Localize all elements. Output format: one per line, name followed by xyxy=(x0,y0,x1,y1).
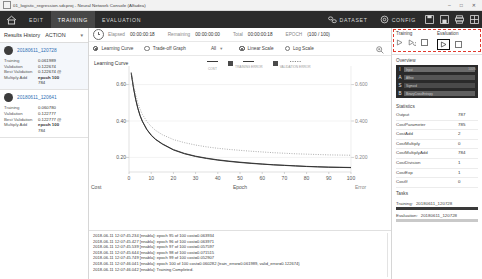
svg-text:0.400: 0.400 xyxy=(355,118,368,124)
tasks-list: Training: 20180611_120728 Evaluation: 20… xyxy=(392,198,482,222)
stat-value: 0 xyxy=(458,178,478,187)
stat-key: CostDivision xyxy=(396,159,458,168)
svg-text:50: 50 xyxy=(237,175,243,181)
table-row: CostParameter785 xyxy=(396,121,478,131)
tab-evaluation[interactable]: EVALUATION xyxy=(95,11,148,28)
document-icon xyxy=(3,1,11,9)
minimize-button[interactable]: – xyxy=(448,3,451,8)
result-name: 20180611_120641 xyxy=(17,95,57,100)
stat-key: CostParameter xyxy=(396,121,458,130)
task-value: 20180611_120728 xyxy=(421,213,457,218)
elapsed-label: Elapsed xyxy=(108,32,125,37)
result-name: 20180611_120728 xyxy=(17,48,57,53)
resume-icon[interactable] xyxy=(408,39,416,46)
gear-icon xyxy=(380,15,389,24)
play-icon[interactable] xyxy=(396,39,403,46)
play-icon xyxy=(440,41,447,48)
training-status-bar: Elapsed 00:00:00:18 Remaining 00:00:00:0… xyxy=(89,28,391,42)
table-row: CostDivision1 xyxy=(396,159,478,169)
training-controls: Training xyxy=(396,31,437,50)
layer-name: Input xyxy=(406,68,413,72)
result-subvalue: 784 xyxy=(4,80,84,85)
overview-layer: S Sigmoid xyxy=(396,82,478,89)
network-overview-thumbnail[interactable]: I Input A Affine S Sigmoid B Bin xyxy=(396,65,478,98)
stat-key: CostMultiply xyxy=(396,140,458,149)
svg-text:100: 100 xyxy=(347,175,356,181)
action-menu[interactable]: ACTION xyxy=(45,32,65,38)
log-line: 2018-06-11 12:07:46.042 [nnabla]: Traini… xyxy=(93,267,391,273)
svg-text:Epoch: Epoch xyxy=(233,184,247,190)
stat-value: 784 xyxy=(458,149,478,158)
statistics-label: Statistics xyxy=(392,101,482,111)
menu-bar: EDIT TRAINING EVALUATION DATASET CONFIG xyxy=(0,11,482,28)
total-label: Total xyxy=(233,32,243,37)
svg-text:70: 70 xyxy=(282,175,288,181)
log-scale-label: Log Scale xyxy=(293,46,314,51)
zoom-in-icon[interactable] xyxy=(376,40,384,58)
learning-curve-label: Learning Curve xyxy=(101,46,133,51)
svg-text:20: 20 xyxy=(171,175,177,181)
stat-key: Output xyxy=(396,111,458,120)
window-controls: – □ ✕ xyxy=(448,3,480,8)
training-log[interactable]: 2018-06-11 12:07:45.234 [nnabla]: epoch … xyxy=(89,230,391,279)
stat-value: 1 xyxy=(458,169,478,178)
tradeoff-graph-label: Trade-off Graph xyxy=(153,46,186,51)
center-panel: Elapsed 00:00:00:18 Remaining 00:00:00:0… xyxy=(89,28,391,279)
evaluation-play-button[interactable] xyxy=(437,39,450,50)
chevron-down-icon[interactable]: ▼ xyxy=(79,33,84,38)
result-card[interactable]: 20180611_120641 Training 0.060780 Valida… xyxy=(0,90,88,137)
filter-select-value[interactable]: All xyxy=(211,46,216,51)
config-button[interactable]: CONFIG xyxy=(374,15,422,24)
chevron-down-icon[interactable]: ▼ xyxy=(219,46,223,51)
print-icon[interactable] xyxy=(452,11,467,28)
save-as-icon[interactable] xyxy=(437,11,452,28)
remaining-label: Remaining xyxy=(168,32,190,37)
svg-text:40: 40 xyxy=(215,175,221,181)
radio-on-icon xyxy=(239,46,244,51)
table-row: CostExp1 xyxy=(396,169,478,179)
radio-log-scale[interactable]: Log Scale xyxy=(285,46,314,51)
stop-icon[interactable] xyxy=(455,41,462,48)
total-value: 00:00:00:18 xyxy=(248,32,273,37)
svg-text:0.60: 0.60 xyxy=(116,81,126,87)
overview-layer: A Affine xyxy=(396,74,478,81)
log-scrollbar[interactable] xyxy=(386,233,389,277)
linear-scale-label: Linear Scale xyxy=(248,46,274,51)
stat-value: 0 xyxy=(458,140,478,149)
task-key: Training: xyxy=(396,201,413,206)
radio-linear-scale[interactable]: Linear Scale xyxy=(239,46,273,51)
svg-text:0.40: 0.40 xyxy=(116,118,126,124)
stat-value: 2 xyxy=(458,130,478,139)
result-value: epoch 100 xyxy=(38,75,59,80)
layout-icon[interactable] xyxy=(467,11,482,28)
radio-learning-curve[interactable]: Learning Curve xyxy=(93,46,133,51)
close-button[interactable]: ✕ xyxy=(472,3,476,8)
chart-plot-area: 0.200.2000.400.4000.600.6000102030405060… xyxy=(89,56,391,201)
clock-icon xyxy=(93,29,104,40)
home-icon[interactable] xyxy=(0,15,22,25)
result-card-header: 20180611_120728 xyxy=(4,46,84,55)
save-icon[interactable] xyxy=(422,11,437,28)
layer-name: BinaryCrossEntropy xyxy=(406,92,433,96)
results-history-header: Results History ACTION ▼ xyxy=(0,28,88,43)
menu-right-group: DATASET CONFIG xyxy=(322,11,482,28)
tab-training[interactable]: TRAINING xyxy=(51,11,95,28)
task-value: 20180611_120728 xyxy=(416,201,452,206)
main-body: Results History ACTION ▼ 20180611_120728… xyxy=(0,28,482,279)
avatar xyxy=(4,93,13,102)
stop-icon[interactable] xyxy=(421,39,428,46)
tab-edit[interactable]: EDIT xyxy=(22,11,51,28)
overview-label: Overview xyxy=(392,55,482,65)
result-key: Multiply Add xyxy=(4,122,38,128)
list-item: Evaluation: 20180611_120728 xyxy=(396,213,478,218)
result-card[interactable]: 20180611_120728 Training 0.061989 Valida… xyxy=(0,43,88,90)
maximize-button[interactable]: □ xyxy=(460,3,463,8)
svg-text:30: 30 xyxy=(193,175,199,181)
result-value: epoch 100 xyxy=(38,122,59,127)
overview-zoom-level: 100% xyxy=(468,67,476,71)
elapsed-value: 00:00:00:18 xyxy=(130,32,155,37)
dataset-button[interactable]: DATASET xyxy=(322,16,374,24)
radio-tradeoff-graph[interactable]: Trade-off Graph xyxy=(144,46,185,51)
svg-text:Error: Error xyxy=(355,184,366,190)
learning-curve-chart[interactable]: Learning Curve COST TRAINING ERROR xyxy=(89,56,391,230)
